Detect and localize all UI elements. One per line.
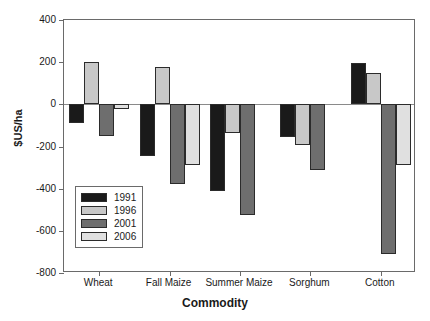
bar — [170, 104, 185, 184]
bar — [381, 104, 396, 254]
bar — [280, 104, 295, 137]
legend-item-label: 2001 — [114, 219, 136, 229]
y-tick-mark — [59, 104, 64, 105]
y-tick-mark — [59, 273, 64, 274]
y-tick-mark — [59, 231, 64, 232]
bar — [295, 104, 310, 145]
x-tick-mark — [240, 271, 241, 276]
y-tick-label: -400 — [24, 184, 56, 194]
bar — [114, 104, 129, 108]
x-tick-label: Sorghum — [289, 277, 330, 288]
y-tick-mark — [59, 147, 64, 148]
y-tick-mark — [59, 189, 64, 190]
x-tick-mark — [310, 271, 311, 276]
legend-swatch-icon — [81, 232, 107, 241]
x-tick-mark — [170, 271, 171, 276]
bar — [84, 62, 99, 104]
y-tick-label: -800 — [24, 268, 56, 278]
x-tick-label: Summer Maize — [205, 277, 272, 288]
y-tick-label: 400 — [24, 15, 56, 25]
y-tick-label: -200 — [24, 142, 56, 152]
x-tick-mark — [381, 271, 382, 276]
bar — [240, 104, 255, 215]
y-tick-label: 200 — [24, 57, 56, 67]
legend-item[interactable]: 2006 — [81, 230, 136, 243]
y-tick-mark — [59, 20, 64, 21]
bar — [225, 104, 240, 132]
bar — [366, 73, 381, 105]
bar — [140, 104, 155, 156]
y-tick-label: -600 — [24, 226, 56, 236]
legend-swatch-icon — [81, 206, 107, 215]
bar — [210, 104, 225, 190]
legend-item[interactable]: 1991 — [81, 191, 136, 204]
bar — [310, 104, 325, 169]
x-tick-label: Wheat — [84, 277, 113, 288]
x-axis-title: Commodity — [0, 296, 430, 310]
legend-item-label: 1991 — [114, 193, 136, 203]
bar — [185, 104, 200, 165]
bar — [351, 63, 366, 104]
y-axis-title: $US/ha — [12, 88, 24, 168]
legend-item-label: 1996 — [114, 206, 136, 216]
y-tick-mark — [59, 62, 64, 63]
y-tick-label: 0 — [24, 99, 56, 109]
x-tick-label: Cotton — [365, 277, 394, 288]
legend-swatch-icon — [81, 193, 107, 202]
legend-item[interactable]: 2001 — [81, 217, 136, 230]
x-tick-mark — [99, 271, 100, 276]
legend-item-label: 2006 — [114, 232, 136, 242]
x-tick-label: Fall Maize — [146, 277, 192, 288]
bar — [396, 104, 411, 165]
bar-chart: $US/ha 4002000-200-400-600-800 WheatFall… — [0, 0, 430, 321]
legend-swatch-icon — [81, 219, 107, 228]
bar — [155, 67, 170, 104]
legend-item[interactable]: 1996 — [81, 204, 136, 217]
bar — [69, 104, 84, 123]
bar — [99, 104, 114, 136]
chart-legend: 1991199620012006 — [75, 186, 143, 248]
